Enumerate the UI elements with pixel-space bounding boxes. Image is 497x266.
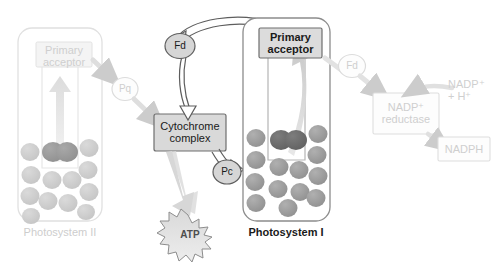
- diagram-canvas: Primary acceptor Photosystem II Pq Fd Cy…: [0, 0, 497, 266]
- photosystem-ii-reaction-center-b: [56, 142, 78, 162]
- atp-starburst[interactable]: [157, 209, 212, 262]
- flow-fd-right-to-reductase: [360, 76, 382, 94]
- flow-fd-to-cytochrome-edge-b: [184, 56, 190, 110]
- diagram-svg: [0, 0, 497, 266]
- photosystem-ii-primary-acceptor-box[interactable]: [36, 42, 92, 67]
- cytochrome-complex-group[interactable]: [154, 114, 226, 151]
- cytochrome-complex-box[interactable]: [154, 114, 226, 151]
- nadph-box[interactable]: [438, 137, 490, 161]
- photosystem-ii-group[interactable]: [18, 28, 102, 224]
- flow-cytochrome-to-atp-body: [166, 151, 194, 216]
- carrier-pc[interactable]: [213, 160, 241, 184]
- carrier-fd-left[interactable]: [165, 34, 195, 59]
- nadp-reductase-box[interactable]: [373, 93, 439, 134]
- flow-nadp-to-reductase: [410, 86, 452, 92]
- photosystem-i-reaction-center-b: [285, 130, 307, 150]
- photosystem-i-primary-acceptor-box[interactable]: [259, 28, 322, 58]
- photosystem-i-group[interactable]: [243, 18, 330, 221]
